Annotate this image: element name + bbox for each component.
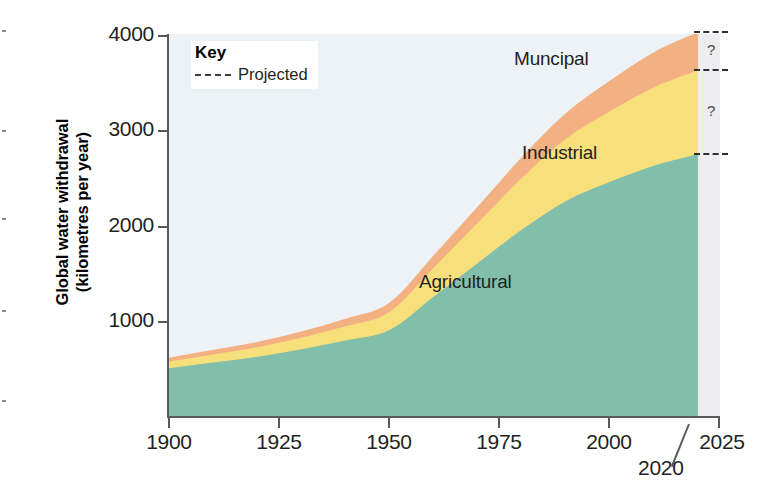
page-edge-mark [2, 30, 6, 32]
page-edge-mark [2, 130, 6, 132]
legend-key: Key Projected [191, 41, 318, 89]
stacked-area-series [169, 34, 720, 416]
series-label-industrial: Industrial [522, 142, 597, 164]
page-edge-mark [2, 218, 6, 220]
x-tick-label-1950: 1950 [334, 430, 444, 454]
x-tick-label-1925: 1925 [224, 430, 334, 454]
y-tick-label-4000: 4000 [34, 22, 154, 46]
legend-item-label: Projected [238, 65, 308, 84]
x-tick-label-1900: 1900 [114, 430, 224, 454]
x-tick-label-1975: 1975 [444, 430, 554, 454]
y-tick-label-1000: 1000 [34, 308, 154, 332]
y-tick-label-2000: 2000 [34, 213, 154, 237]
projected-dash-industrial [694, 69, 728, 71]
x-tick-1925 [278, 418, 280, 428]
projected-dash-total [694, 31, 728, 33]
series-label-municipal: Muncipal [514, 48, 588, 70]
legend-item-projected: Projected [195, 65, 308, 84]
callout-label-2020: 2020 [638, 456, 684, 480]
x-tick-2025 [718, 418, 720, 428]
x-tick-1950 [388, 418, 390, 428]
projection-marker-industrial: ? [707, 102, 715, 119]
chart-figure: Global water withdrawal (kilometres per … [0, 0, 762, 500]
x-tick-1975 [498, 418, 500, 428]
projection-marker-municipal: ? [707, 41, 715, 58]
x-tick-label-2000: 2000 [554, 430, 664, 454]
x-tick-1900 [168, 418, 170, 428]
plot-area: Muncipal Industrial Agricultural ? ? Key… [169, 34, 720, 416]
y-tick-1000 [158, 321, 167, 323]
y-tick-3000 [158, 130, 167, 132]
legend-title: Key [195, 43, 308, 63]
x-tick-2000 [608, 418, 610, 428]
dashed-line-icon [195, 74, 231, 76]
projected-dash-agricultural [694, 153, 728, 155]
page-edge-mark [2, 310, 6, 312]
x-axis-line [167, 416, 720, 418]
series-label-agricultural: Agricultural [419, 271, 512, 293]
y-tick-4000 [158, 35, 167, 37]
y-tick-label-3000: 3000 [34, 117, 154, 141]
page-edge-mark [2, 400, 6, 402]
y-tick-2000 [158, 226, 167, 228]
